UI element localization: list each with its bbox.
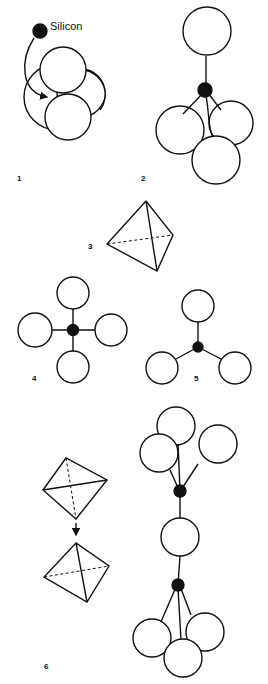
panel-6-silicate-chain	[133, 407, 237, 677]
panel-2-tetrahedral-bonding	[156, 7, 253, 184]
panel-label-6: 6	[44, 662, 48, 671]
panel-label-3: 3	[88, 242, 92, 251]
panel-label-2: 2	[141, 174, 145, 183]
panel-6-linked-tetrahedra	[43, 458, 109, 602]
panel-label-5: 5	[194, 374, 198, 383]
silicate-diagram	[0, 0, 268, 684]
panel-label-1: 1	[17, 174, 21, 183]
panel-1-packing	[24, 24, 105, 140]
panel-5-three-oxygens	[146, 290, 251, 384]
panel-3-tetrahedron	[107, 201, 173, 271]
panel-4-plan-view	[18, 277, 127, 383]
silicon-label: Silicon	[50, 20, 82, 32]
panel-label-4: 4	[32, 374, 36, 383]
